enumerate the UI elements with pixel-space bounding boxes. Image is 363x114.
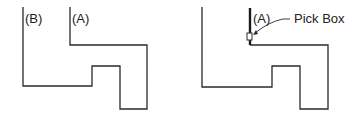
label-pick-box: Pick Box (294, 12, 345, 25)
label-b-left: (B) (25, 12, 42, 25)
arrowhead-icon (253, 30, 258, 35)
label-a-left: (A) (72, 12, 89, 25)
pick-box-icon (247, 33, 252, 40)
label-a-right: (A) (253, 12, 270, 25)
